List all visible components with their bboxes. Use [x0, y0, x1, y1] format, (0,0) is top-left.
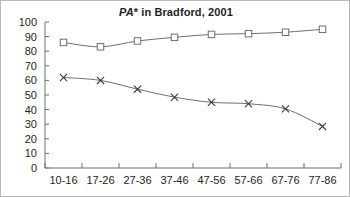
lower-series-markers [60, 74, 326, 130]
plot-area: 0102030405060708090100 10-1617-2627-3637… [1, 1, 350, 197]
data-point-marker [208, 31, 215, 38]
data-point-marker [319, 123, 326, 130]
data-point-marker [60, 39, 67, 46]
y-tick-label: 20 [25, 133, 37, 145]
y-tick-label: 80 [25, 45, 37, 57]
chart-figure: PA* in Bradford, 2001 010203040506070809… [0, 0, 350, 197]
x-tick-label: 77-86 [308, 174, 336, 186]
y-tick-label: 50 [25, 89, 37, 101]
y-tick-label: 40 [25, 104, 37, 116]
x-tick-label: 57-66 [234, 174, 262, 186]
y-tick-label: 10 [25, 147, 37, 159]
data-point-marker [134, 38, 141, 45]
x-tick-label: 67-76 [271, 174, 299, 186]
upper-series-markers [60, 26, 326, 50]
data-point-marker [171, 34, 178, 41]
data-point-marker [319, 26, 326, 33]
data-point-marker [282, 105, 289, 112]
y-tick-label: 100 [19, 16, 37, 28]
x-tick-label: 37-46 [160, 174, 188, 186]
y-tick-label: 90 [25, 31, 37, 43]
y-tick-label: 30 [25, 118, 37, 130]
y-tick-label: 0 [31, 162, 37, 174]
x-axis-tick-labels: 10-1617-2627-3637-4647-5657-6667-7677-86 [49, 174, 336, 186]
data-point-marker [134, 86, 141, 93]
x-tick-label: 10-16 [49, 174, 77, 186]
x-tick-label: 27-36 [123, 174, 151, 186]
x-tick-label: 17-26 [86, 174, 114, 186]
data-point-marker [282, 29, 289, 36]
lower-series-line [64, 77, 323, 126]
x-tick-label: 47-56 [197, 174, 225, 186]
y-axis-tick-marks [45, 22, 49, 168]
y-tick-label: 60 [25, 74, 37, 86]
y-axis-tick-labels: 0102030405060708090100 [19, 16, 37, 174]
x-axis-tick-marks [45, 163, 341, 168]
y-tick-label: 70 [25, 60, 37, 72]
data-point-marker [97, 44, 104, 51]
data-point-marker [245, 30, 252, 37]
